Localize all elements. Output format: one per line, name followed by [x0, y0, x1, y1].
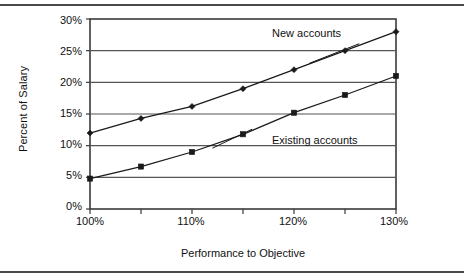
annotation-new-accounts: New accounts — [272, 27, 341, 39]
bottom-horizontal-rule — [0, 271, 464, 273]
gridlines — [90, 51, 396, 178]
top-horizontal-rule — [0, 4, 464, 6]
chart-svg — [0, 8, 464, 270]
annotation-existing-accounts: Existing accounts — [272, 134, 358, 146]
x-axis-title: Performance to Objective — [90, 247, 396, 259]
chart-figure: Percent of Salary 30% 25% 20% 15% 10% 5%… — [0, 0, 464, 279]
chart-plot-container: Percent of Salary 30% 25% 20% 15% 10% 5%… — [0, 8, 464, 270]
annotation-leader-lines — [212, 44, 359, 149]
